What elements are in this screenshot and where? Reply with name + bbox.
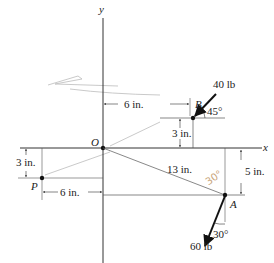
force-B-magnitude: 40 lb [213,79,235,90]
point-B [191,116,195,120]
point-B-label: B [195,99,202,110]
line-OA [103,148,225,195]
dim-A-vertical: 5 in. [245,166,265,177]
dim-P-vertical: 3 in. [16,157,36,168]
dim-OA-length: 13 in. [167,164,192,175]
force-A-magnitude: 60 lb [190,241,212,252]
y-axis-label: y [99,4,104,15]
dim-B-horizontal: 6 in. [124,99,144,110]
force-diagram: y x O B A P 40 lb 45° 60 lb 30° 6 in. 3 … [0,0,274,263]
dim-B-vertical: 3 in. [172,128,192,139]
force-A-angle: 30° [213,229,228,240]
origin-label: O [91,137,99,148]
force-B-angle: 45° [207,106,222,117]
dim-P-horizontal: 6 in. [60,187,80,198]
point-A-label: A [230,199,237,210]
point-P-label: P [31,181,38,192]
diagram-lines [0,0,274,263]
point-A [223,193,227,197]
point-P [40,176,44,180]
x-axis-label: x [263,142,268,153]
